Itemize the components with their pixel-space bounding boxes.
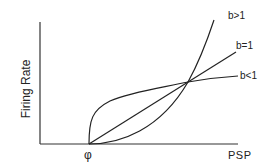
firing-rate-figure: Firing Rate PSP φ b>1 b=1 b<1 [0, 0, 276, 168]
y-axis-label: Firing Rate [19, 49, 33, 129]
legend-b-lt-1: b<1 [240, 70, 257, 81]
threshold-label: φ [84, 148, 92, 162]
legend-b-gt-1: b>1 [228, 10, 245, 21]
curve-b-eq-1 [89, 52, 236, 144]
legend-b-eq-1: b=1 [236, 40, 253, 51]
curve-b-lt-1 [89, 76, 238, 144]
curve-b-gt-1 [89, 20, 214, 144]
plot-area [0, 0, 276, 168]
x-axis-label: PSP [228, 149, 252, 161]
